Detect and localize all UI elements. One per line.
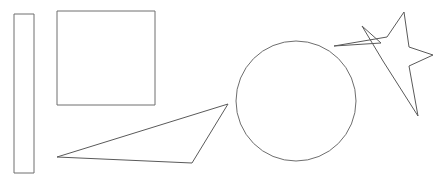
triangle-shape[interactable] (57, 104, 228, 163)
shapes-drawing-surface[interactable] (0, 0, 437, 180)
square-shape[interactable] (57, 11, 155, 105)
shapes-canvas (0, 0, 437, 180)
circle-shape[interactable] (236, 41, 356, 161)
star-shape[interactable] (334, 12, 433, 116)
thin-rectangle-shape[interactable] (14, 14, 34, 173)
